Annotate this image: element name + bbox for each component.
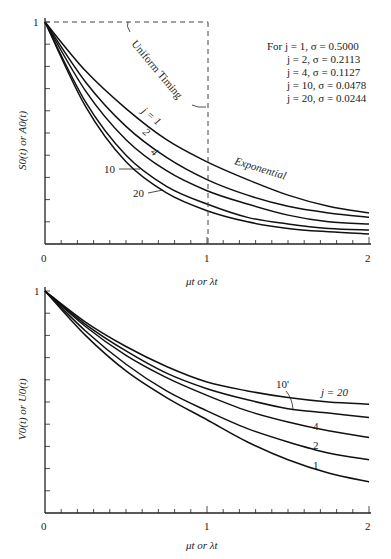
uniform-timing-label: Uniform Timing	[129, 38, 185, 102]
top-x0-label: 0	[41, 252, 47, 264]
j1-label-bottom: 1	[313, 459, 319, 471]
uniform-arrow-top	[127, 22, 130, 32]
j20-label-top: 20	[133, 187, 145, 199]
top-x2-label: 2	[365, 252, 371, 264]
top-y1-label: 1	[33, 16, 39, 28]
bottom-y-axis-label: V0(t) or U0(t)	[16, 378, 29, 440]
j20-arrow	[148, 190, 163, 193]
uniform-arrow-right	[192, 105, 206, 107]
bottom-curve-j-4	[45, 291, 369, 438]
bottom-x2-label: 2	[365, 520, 371, 532]
bottom-x-axis-label: μt or λt	[185, 539, 219, 551]
chart-figure: 1 0 1 2 μt or λt S0(t) or A0(t) Uniform …	[0, 0, 391, 559]
j10-label-top: 10	[104, 163, 116, 175]
bottom-curve-j-2	[45, 291, 369, 460]
j10-arrow-bottom	[286, 391, 293, 409]
bottom-x1-label: 1	[204, 520, 210, 532]
bottom-y1-label: 1	[34, 285, 40, 297]
top-x1-label: 1	[204, 252, 210, 264]
j4-label-bottom: 4	[313, 420, 319, 432]
j2-label-bottom: 2	[313, 439, 319, 451]
legend-line-2: j = 2, σ = 0.2113	[286, 53, 361, 65]
top-chart: 1 0 1 2 μt or λt S0(t) or A0(t) Uniform …	[16, 16, 371, 287]
legend-line-4: j = 10, σ = 0.0478	[286, 79, 367, 91]
legend-line-3: j = 4, σ = 0.1127	[286, 66, 361, 78]
legend: For j = 1, σ = 0.5000 j = 2, σ = 0.2113 …	[267, 40, 367, 104]
legend-line-1: For j = 1, σ = 0.5000	[267, 40, 359, 52]
bottom-curve-j-10	[45, 291, 369, 418]
bottom-axes	[45, 287, 371, 513]
bottom-x0-label: 0	[41, 520, 47, 532]
j20-label-bottom: j = 20	[319, 386, 348, 398]
j2-label-top: 2	[141, 125, 153, 138]
j1-label-top: j = 1	[138, 103, 164, 127]
top-y-axis-label: S0(t) or A0(t)	[16, 111, 29, 170]
top-x-axis-label: μt or λt	[185, 275, 219, 287]
j10-label-bottom: 10'	[276, 378, 289, 390]
bottom-chart: 1 0 1 2 μt or λt V0(t) or U0(t) 10' j = …	[16, 285, 371, 551]
legend-line-5: j = 20, σ = 0.0244	[286, 92, 367, 104]
